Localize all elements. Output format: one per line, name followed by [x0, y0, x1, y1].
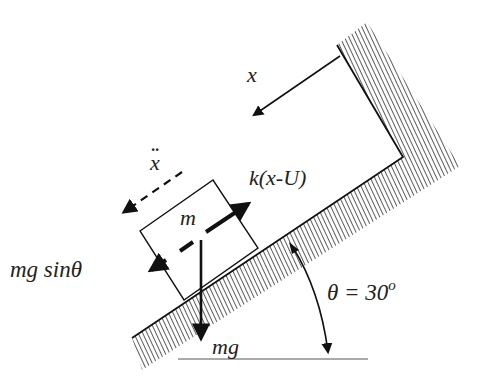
label-x-accel: x	[149, 150, 160, 175]
label-spring-force: k(x-U)	[249, 165, 306, 190]
label-x-displacement: x	[246, 62, 257, 87]
ground-hatching	[132, 22, 460, 370]
label-gravity-component: mg sinθ	[10, 257, 82, 282]
label-weight: mg	[212, 334, 239, 359]
label-angle: θ = 30o	[327, 277, 396, 305]
x-displacement-arrow	[254, 56, 340, 115]
acceleration-arrow	[124, 172, 182, 212]
label-angle-degree: o	[388, 277, 396, 293]
incline-free-body-diagram: x ·· x k(x-U) m mg sinθ mg θ = 30o	[0, 0, 487, 392]
label-mass: m	[180, 205, 196, 230]
label-angle-value: θ = 30	[327, 280, 389, 305]
